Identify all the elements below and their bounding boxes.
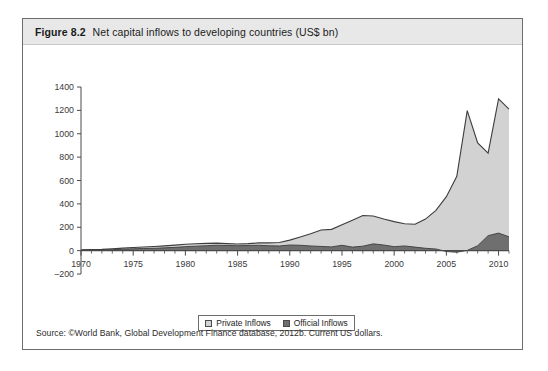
legend-label-official: Official Inflows — [294, 318, 348, 328]
figure-card: Figure 8.2 Net capital inflows to develo… — [22, 18, 523, 350]
capital-inflows-area-chart: 1400120010008006004002000–200 1970197519… — [23, 45, 522, 350]
x-axis-tick-label: 2000 — [384, 259, 404, 269]
legend-item-private: Private Inflows — [205, 318, 270, 328]
legend-item-official: Official Inflows — [283, 318, 348, 328]
y-axis-tick-label: 600 — [59, 176, 74, 186]
legend-swatch-private — [205, 320, 212, 327]
area-private-inflows — [81, 99, 509, 251]
y-axis-tick-label: 1200 — [54, 105, 74, 115]
x-axis-tick-label: 1990 — [280, 259, 300, 269]
legend-swatch-official — [283, 320, 290, 327]
chart-areas — [81, 99, 509, 252]
x-axis-tick-label: 1995 — [332, 259, 352, 269]
legend-label-private: Private Inflows — [216, 318, 270, 328]
y-axis-tick-labels: 1400120010008006004002000–200 — [54, 82, 74, 279]
plot-area: 1400120010008006004002000–200 1970197519… — [23, 45, 522, 349]
x-axis-tick-label: 1975 — [123, 259, 143, 269]
y-axis-tick-label: 800 — [59, 152, 74, 162]
y-axis-tick-label: 1000 — [54, 129, 74, 139]
figure-title-band: Figure 8.2 Net capital inflows to develo… — [23, 19, 522, 45]
y-axis-tick-label: 400 — [59, 199, 74, 209]
x-axis-tick-label: 1980 — [176, 259, 196, 269]
x-axis-tick-labels: 197019751980198519901995200020052010 — [71, 259, 508, 269]
x-axis-tick-label: 1985 — [228, 259, 248, 269]
y-axis-tick-label: 200 — [59, 222, 74, 232]
figure-number: Figure 8.2 — [35, 26, 86, 38]
figure-source-note: Source: ©World Bank, Global Development … — [36, 328, 383, 338]
x-axis-tick-label: 2010 — [489, 259, 509, 269]
x-axis-tick-label: 2005 — [437, 259, 457, 269]
y-axis-tick-label: 1400 — [54, 82, 74, 92]
y-axis-tick-label: 0 — [69, 246, 74, 256]
x-axis-tick-label: 1970 — [71, 259, 91, 269]
y-axis-tick-label: –200 — [54, 269, 74, 279]
figure-caption: Net capital inflows to developing countr… — [93, 26, 339, 38]
